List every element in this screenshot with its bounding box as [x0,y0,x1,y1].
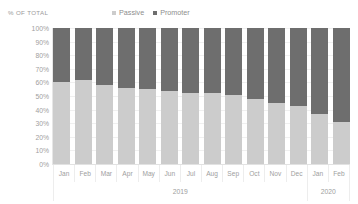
x-axis-month-label: Jun [160,165,181,182]
bar-segment-passive[interactable] [53,82,70,164]
y-axis-tick-20pct: 20% [35,133,49,140]
x-axis-year-labels: 20192020 [53,182,350,201]
bar-column[interactable] [96,28,113,164]
bar-segment-promoter[interactable] [139,28,156,89]
y-axis-tick-90pct: 90% [35,38,49,45]
bar-column[interactable] [333,28,350,164]
bar-segment-promoter[interactable] [333,28,350,122]
x-axis-month-label: Jan [308,165,329,182]
bar-segment-passive[interactable] [139,89,156,164]
bar-segment-promoter[interactable] [75,28,92,80]
bar-column[interactable] [268,28,285,164]
y-axis-tick-10pct: 10% [35,147,49,154]
x-axis-month-label: Nov [265,165,286,182]
bar-segment-passive[interactable] [204,93,221,164]
bar-segment-passive[interactable] [311,114,328,164]
bar-column[interactable] [225,28,242,164]
bar-segment-promoter[interactable] [247,28,264,99]
legend-swatch-promoter [153,11,157,15]
y-axis-tick-labels: 100%90%80%70%60%50%40%30%20%10%0% [0,28,49,164]
y-axis-tick-40pct: 40% [35,106,49,113]
y-axis-tick-60pct: 60% [35,79,49,86]
y-axis-tick-50pct: 50% [35,93,49,100]
bar-series-container [53,28,350,164]
y-axis-tick-80pct: 80% [35,52,49,59]
bar-segment-passive[interactable] [96,85,113,164]
x-axis-month-label: Aug [202,165,223,182]
x-axis-month-label: Apr [117,165,138,182]
bar-segment-passive[interactable] [290,106,307,164]
bar-segment-passive[interactable] [333,122,350,164]
legend-item-promoter[interactable]: Promoter [153,8,190,17]
x-axis-month-label: Jul [181,165,202,182]
legend-label-passive: Passive [119,8,144,17]
bar-segment-passive[interactable] [182,93,199,164]
y-axis-tick-30pct: 30% [35,120,49,127]
x-axis-month-label: Mar [96,165,117,182]
x-axis: JanFebMarAprMayJunJulAugSepOctNovDecJanF… [53,165,350,201]
bar-column[interactable] [290,28,307,164]
bar-segment-promoter[interactable] [182,28,199,93]
bar-column[interactable] [182,28,199,164]
x-axis-month-label: Jan [53,165,75,182]
x-axis-month-label: Dec [287,165,308,182]
bar-segment-passive[interactable] [268,103,285,164]
bar-column[interactable] [118,28,135,164]
x-axis-month-label: Feb [75,165,96,182]
bar-segment-promoter[interactable] [53,28,70,82]
x-axis-month-labels: JanFebMarAprMayJunJulAugSepOctNovDecJanF… [53,165,350,182]
x-axis-month-label: May [139,165,160,182]
bar-segment-promoter[interactable] [290,28,307,106]
bar-segment-passive[interactable] [118,88,135,164]
x-axis-month-label: Feb [329,165,350,182]
x-axis-year-label: 2019 [53,182,308,201]
bar-column[interactable] [139,28,156,164]
y-axis-tick-100pct: 100% [32,25,49,32]
bar-segment-passive[interactable] [225,95,242,164]
bar-column[interactable] [75,28,92,164]
y-axis-title: % OF TOTAL [8,9,48,16]
bar-segment-promoter[interactable] [161,28,178,91]
bar-segment-promoter[interactable] [96,28,113,85]
bar-column[interactable] [204,28,221,164]
bar-segment-passive[interactable] [247,99,264,164]
y-axis-tick-0pct: 0% [39,161,49,168]
bar-column[interactable] [311,28,328,164]
bar-segment-passive[interactable] [161,91,178,164]
bar-segment-passive[interactable] [75,80,92,164]
bar-segment-promoter[interactable] [204,28,221,93]
bar-column[interactable] [53,28,70,164]
bar-segment-promoter[interactable] [268,28,285,103]
legend-label-promoter: Promoter [160,8,190,17]
plot-area [53,28,350,164]
bar-segment-promoter[interactable] [118,28,135,88]
bar-column[interactable] [247,28,264,164]
bar-segment-promoter[interactable] [225,28,242,95]
legend-swatch-passive [112,11,116,15]
bar-segment-promoter[interactable] [311,28,328,114]
x-axis-month-label: Oct [244,165,265,182]
x-axis-year-label: 2020 [308,182,350,201]
bar-column[interactable] [161,28,178,164]
legend-item-passive[interactable]: Passive [112,8,144,17]
y-axis-tick-70pct: 70% [35,65,49,72]
stacked-bar-chart: % OF TOTAL Passive Promoter 100%90%80%70… [0,0,358,204]
x-axis-month-label: Sep [223,165,244,182]
chart-legend: Passive Promoter [112,8,190,17]
